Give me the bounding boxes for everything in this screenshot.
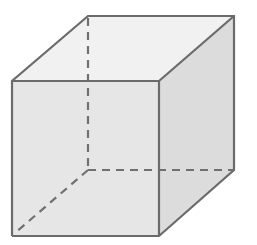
cube-diagram (0, 0, 257, 245)
cube-front-face (12, 81, 159, 236)
cube-drawing (0, 0, 257, 245)
